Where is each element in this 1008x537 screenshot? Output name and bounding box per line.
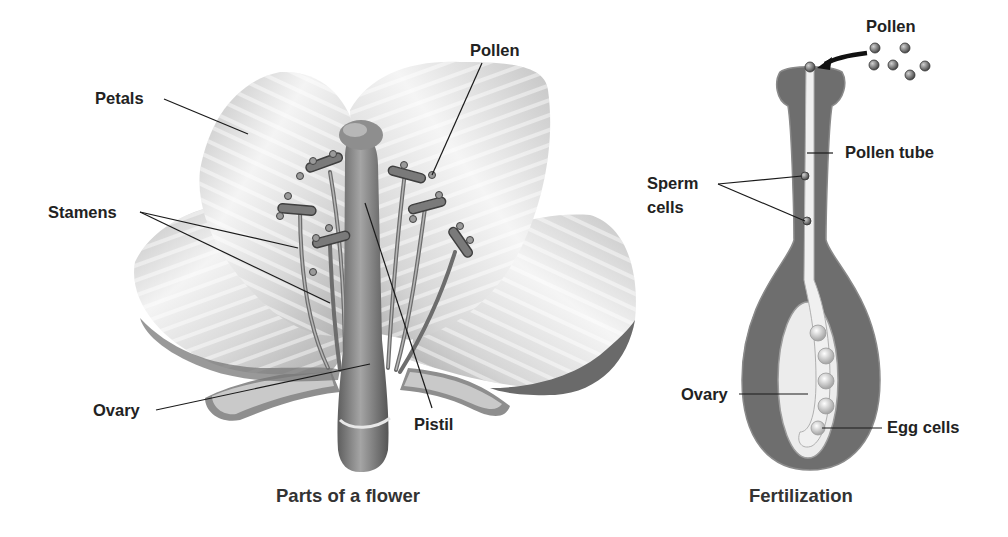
label-pollen-fertilization: Pollen [866, 17, 916, 36]
flower-illustration [134, 62, 636, 472]
diagram-svg [0, 0, 1008, 537]
pollen-grain-tip [805, 62, 815, 72]
label-pollen-tube: Pollen tube [845, 143, 934, 162]
label-pollen-flower: Pollen [470, 41, 520, 60]
label-ovary-fertilization: Ovary [681, 385, 728, 404]
caption-parts-of-a-flower: Parts of a flower [276, 485, 420, 507]
label-petals: Petals [95, 89, 144, 108]
pollen-grains-free [869, 43, 930, 80]
sperm-cell-1 [801, 172, 809, 180]
label-ovary-flower: Ovary [93, 401, 140, 420]
label-sperm-cells-line1: Sperm [647, 174, 698, 193]
label-egg-cells: Egg cells [887, 418, 959, 437]
label-pistil: Pistil [414, 415, 453, 434]
diagram-canvas: Petals Stamens Ovary Pistil Pollen Parts… [0, 0, 1008, 537]
label-sperm-cells-line2: cells [647, 198, 684, 217]
label-stamens: Stamens [48, 203, 117, 222]
pistil-cross-section [742, 62, 880, 470]
caption-fertilization: Fertilization [749, 485, 853, 507]
